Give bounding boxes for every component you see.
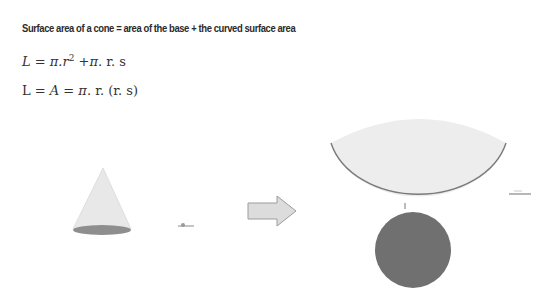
- cone-base: [73, 225, 131, 235]
- circumference-label: [509, 191, 531, 194]
- radius-label: [178, 223, 194, 227]
- cone-figure: [73, 168, 131, 235]
- arrow-right-icon: [248, 196, 296, 226]
- cone-lateral-surface: [73, 168, 131, 229]
- cone-net-diagram: [0, 0, 560, 306]
- base-circle: [375, 212, 451, 288]
- unrolled-sector: [331, 119, 506, 209]
